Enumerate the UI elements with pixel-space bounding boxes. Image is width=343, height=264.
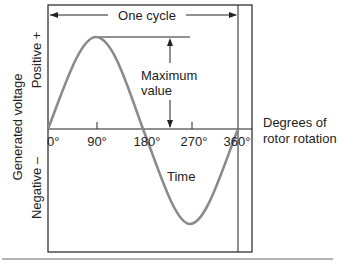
arrowhead-right-icon [229,12,237,18]
sine-wave-diagram: One cycle Maximum value 0° 90° 180° 270°… [0,0,343,264]
tick-label-0: 0° [47,134,59,149]
arrowhead-left-icon [50,12,58,18]
x-axis-label-line2: rotor rotation [263,131,337,146]
tick-label-90: 90° [87,134,107,149]
maximum-label: Maximum [141,68,197,83]
sine-curve [48,37,238,224]
time-label: Time [167,169,195,184]
negative-label: Negative – [29,156,44,219]
positive-label: Positive + [29,32,44,89]
x-axis-label-line1: Degrees of [263,115,327,130]
arrowhead-down-icon [167,120,173,128]
tick-label-180: 180° [134,134,161,149]
tick-label-360: 360° [224,134,251,149]
y-axis-label: Generated voltage [10,74,25,181]
tick-label-270: 270° [181,134,208,149]
one-cycle-label: One cycle [118,8,176,23]
value-label: value [141,83,172,98]
arrowhead-up-icon [167,38,173,46]
